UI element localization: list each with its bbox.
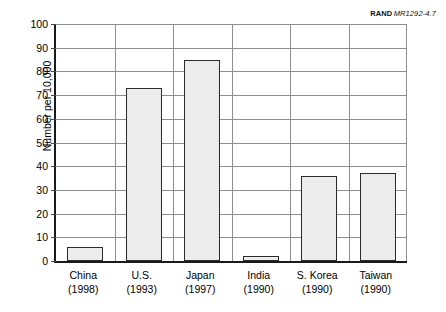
x-axis-label-s-korea: S. Korea(1990) — [288, 269, 347, 296]
x-label-country: U.S. — [113, 269, 172, 283]
plot-area: 0102030405060708090100 — [54, 24, 407, 263]
x-label-year: (1990) — [288, 283, 347, 297]
x-separator-2 — [173, 24, 174, 261]
y-axis-label-30: 30 — [36, 184, 48, 196]
x-label-year: (1997) — [171, 283, 230, 297]
y-axis-label-90: 90 — [36, 42, 48, 54]
x-separator-3 — [232, 24, 233, 261]
y-tick-70 — [51, 95, 56, 96]
rand-logo-text: RAND — [370, 9, 392, 18]
y-tick-50 — [51, 143, 56, 144]
y-axis-label-0: 0 — [42, 255, 48, 267]
y-tick-100 — [51, 24, 56, 25]
y-axis-label-80: 80 — [36, 65, 48, 77]
y-axis-label-60: 60 — [36, 113, 48, 125]
x-separator-1 — [115, 24, 116, 261]
x-label-year: (1990) — [230, 283, 289, 297]
y-tick-60 — [51, 119, 56, 120]
rand-document-id: MR1292-4.7 — [394, 9, 436, 18]
y-axis-label-40: 40 — [36, 160, 48, 172]
bar-taiwan — [360, 173, 396, 261]
y-axis-label-50: 50 — [36, 137, 48, 149]
bar-india — [243, 256, 279, 261]
bar-s-korea — [301, 176, 337, 261]
y-axis-label-20: 20 — [36, 208, 48, 220]
x-label-country: India — [230, 269, 289, 283]
y-tick-20 — [51, 214, 56, 215]
x-axis-label-india: India(1990) — [230, 269, 289, 296]
x-axis-label-china: China(1998) — [54, 269, 113, 296]
x-label-country: China — [54, 269, 113, 283]
x-axis-label-japan: Japan(1997) — [171, 269, 230, 296]
y-tick-0 — [51, 261, 56, 262]
x-axis-label-taiwan: Taiwan(1990) — [347, 269, 406, 296]
x-label-year: (1990) — [347, 283, 406, 297]
y-tick-30 — [51, 190, 56, 191]
rand-attribution: RANDMR1292-4.7 — [370, 9, 436, 18]
y-axis-label-10: 10 — [36, 231, 48, 243]
chart-figure: RANDMR1292-4.7 Number per 10,000 0102030… — [0, 0, 446, 312]
y-axis-label-100: 100 — [30, 18, 48, 30]
x-separator-5 — [349, 24, 350, 261]
x-label-country: Taiwan — [347, 269, 406, 283]
y-tick-10 — [51, 237, 56, 238]
x-label-country: Japan — [171, 269, 230, 283]
x-separator-4 — [290, 24, 291, 261]
x-label-country: S. Korea — [288, 269, 347, 283]
x-axis-label-u-s: U.S.(1993) — [113, 269, 172, 296]
y-axis-label-70: 70 — [36, 89, 48, 101]
y-tick-80 — [51, 71, 56, 72]
x-label-year: (1993) — [113, 283, 172, 297]
y-tick-40 — [51, 166, 56, 167]
y-tick-90 — [51, 48, 56, 49]
bar-china — [67, 247, 103, 261]
bar-japan — [184, 60, 220, 261]
x-label-year: (1998) — [54, 283, 113, 297]
bar-u-s — [126, 88, 162, 261]
y-axis-title: Number per 10,000 — [41, 11, 53, 201]
